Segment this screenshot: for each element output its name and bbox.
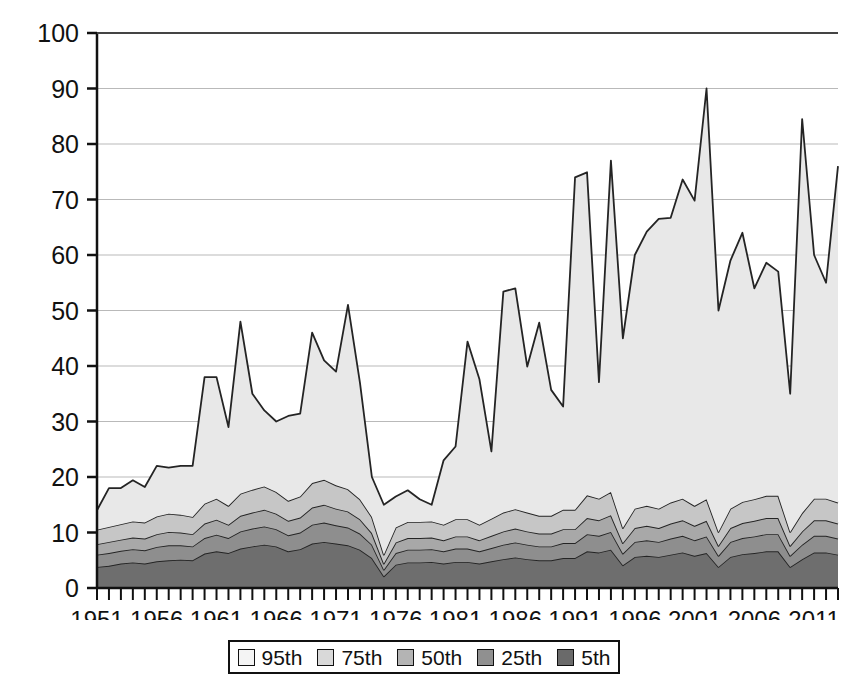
legend-item-50th: 50th (397, 647, 462, 668)
legend-item-95th: 95th (238, 647, 303, 668)
x-tick-label: 1956 (130, 606, 183, 620)
x-tick-label: 1966 (250, 606, 303, 620)
x-tick-label: 2001 (668, 606, 721, 620)
plot-area: 0102030405060708090100 19511956196119661… (0, 0, 850, 620)
x-tick-label: 1971 (309, 606, 362, 620)
legend-swatch-icon (397, 649, 414, 666)
y-tick-label: 0 (65, 574, 79, 602)
legend-swatch-icon (477, 649, 494, 666)
x-axis-labels: 1951195619611966197119761981198619911996… (70, 606, 840, 620)
legend-swatch-icon (557, 649, 574, 666)
y-tick-label: 80 (51, 130, 79, 158)
area-95th (97, 89, 838, 555)
legend-label: 95th (262, 647, 303, 668)
y-tick-label: 90 (51, 75, 79, 103)
x-tick-label: 1996 (608, 606, 661, 620)
y-tick-label: 30 (51, 408, 79, 436)
y-axis-ticks (87, 33, 97, 588)
legend-item-75th: 75th (317, 647, 382, 668)
y-tick-label: 70 (51, 186, 79, 214)
y-tick-label: 10 (51, 519, 79, 547)
y-tick-label: 100 (37, 19, 79, 47)
legend-label: 50th (421, 647, 462, 668)
chart-figure: 0102030405060708090100 19511956196119661… (0, 0, 850, 696)
legend-label: 25th (501, 647, 542, 668)
legend-item-25th: 25th (477, 647, 542, 668)
legend-swatch-icon (317, 649, 334, 666)
x-tick-label: 2006 (728, 606, 781, 620)
y-tick-label: 50 (51, 297, 79, 325)
x-tick-label: 1961 (190, 606, 243, 620)
y-axis-labels: 0102030405060708090100 (37, 19, 79, 602)
area-series-group (97, 89, 838, 589)
y-tick-label: 60 (51, 241, 79, 269)
y-tick-label: 40 (51, 352, 79, 380)
x-tick-label: 2011 (788, 606, 840, 620)
x-tick-label: 1981 (429, 606, 482, 620)
x-axis-ticks (97, 588, 838, 600)
chart-legend: 95th75th50th25th5th (228, 640, 620, 674)
legend-item-5th: 5th (557, 647, 610, 668)
y-tick-label: 20 (51, 463, 79, 491)
legend-swatch-icon (238, 649, 255, 666)
x-tick-label: 1986 (489, 606, 542, 620)
x-tick-label: 1991 (548, 606, 601, 620)
legend-label: 75th (341, 647, 382, 668)
legend-label: 5th (581, 647, 610, 668)
x-tick-label: 1976 (369, 606, 422, 620)
x-tick-label: 1951 (70, 606, 123, 620)
stacked-area-chart: 0102030405060708090100 19511956196119661… (0, 0, 850, 620)
